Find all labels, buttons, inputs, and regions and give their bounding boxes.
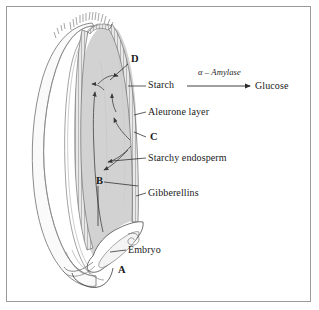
seed-diagram-figure: D Starch α – Amylase Glucose Aleurone la… bbox=[0, 0, 319, 310]
callout-label-b: B bbox=[96, 176, 103, 187]
callout-label-c: C bbox=[150, 132, 158, 143]
label-starch: Starch bbox=[148, 80, 174, 90]
callout-label-d: D bbox=[131, 54, 139, 65]
label-gibberellins: Gibberellins bbox=[148, 188, 199, 198]
label-glucose: Glucose bbox=[255, 81, 288, 91]
callout-label-a: A bbox=[118, 265, 126, 276]
label-embryo: Embryo bbox=[128, 245, 161, 255]
label-alpha-amylase: α – Amylase bbox=[198, 68, 241, 77]
label-starchy-endosperm: Starchy endosperm bbox=[148, 153, 227, 163]
label-aleurone-layer: Aleurone layer bbox=[148, 107, 209, 117]
